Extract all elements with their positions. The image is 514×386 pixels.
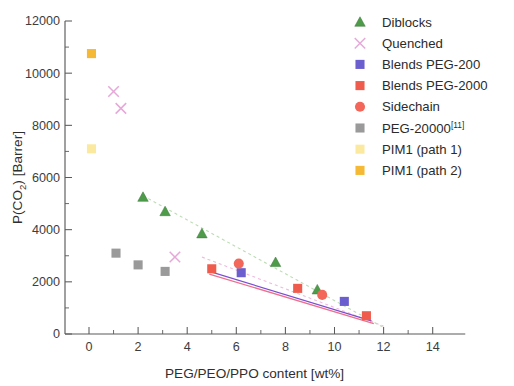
y-tick-label: 2000 [32, 275, 60, 289]
legend-marker-7 [355, 166, 364, 175]
legend-marker-6 [355, 145, 364, 154]
data-point [170, 252, 181, 263]
series-pim1-path-1 [87, 144, 96, 153]
y-tick-label: 8000 [32, 119, 60, 133]
legend-label-7[interactable]: PIM1 (path 2) [382, 163, 462, 178]
x-tick-label: 12 [377, 340, 391, 354]
data-point [197, 228, 208, 238]
legend-label-1[interactable]: Quenched [382, 36, 443, 51]
series-peg-20000 [111, 249, 169, 276]
legend-label-0[interactable]: Diblocks [382, 15, 432, 30]
data-point [234, 259, 244, 269]
x-tick-label: 4 [184, 340, 191, 354]
y-tick-label: 4000 [32, 223, 60, 237]
data-point [340, 297, 349, 306]
data-point [207, 264, 216, 273]
blends-peg2000-trend [209, 274, 373, 324]
x-tick-label: 2 [135, 340, 142, 354]
blends-peg200-trend [209, 271, 371, 321]
legend-marker-2 [355, 60, 364, 69]
legend-label-3[interactable]: Blends PEG-2000 [382, 78, 488, 93]
axis-titles: PEG/PEO/PPO content [wt%]P(CO2) [Barrer] [10, 131, 344, 381]
legend-label-4[interactable]: Sidechain [382, 99, 440, 114]
y-tick-label: 6000 [32, 171, 60, 185]
series-quenched [108, 86, 180, 262]
scatter-plot: 02000400060008000100001200002468101214 P… [0, 0, 514, 386]
x-tick-label: 6 [233, 340, 240, 354]
legend-marker-5 [355, 123, 364, 132]
data-point [362, 311, 371, 320]
series-diblocks [138, 192, 323, 294]
data-point [317, 290, 327, 300]
series-pim1-path-2 [87, 49, 96, 58]
x-tick-label: 14 [426, 340, 440, 354]
y-tick-label: 12000 [25, 14, 60, 28]
data-point [138, 192, 149, 202]
series-blends-peg-2000 [207, 264, 371, 320]
chart-legend: DiblocksQuenchedBlends PEG-200Blends PEG… [355, 15, 488, 178]
legend-label-6[interactable]: PIM1 (path 1) [382, 142, 462, 157]
data-point [160, 206, 171, 216]
data-point [293, 284, 302, 293]
legend-marker-1 [355, 38, 366, 49]
legend-marker-3 [355, 81, 364, 90]
y-tick-label: 10000 [25, 67, 60, 81]
data-point [87, 49, 96, 58]
data-point [116, 103, 127, 114]
y-tick-label: 0 [53, 327, 60, 341]
data-point [108, 86, 119, 97]
legend-label-2[interactable]: Blends PEG-200 [382, 57, 480, 72]
legend-marker-0 [355, 17, 366, 27]
legend-label-5[interactable]: PEG-20000[11] [382, 120, 464, 136]
x-tick-label: 0 [85, 340, 92, 354]
legend-marker-4 [355, 102, 365, 112]
data-point [270, 257, 281, 267]
x-tick-label: 8 [282, 340, 289, 354]
data-point [237, 268, 246, 277]
chart-figure: 02000400060008000100001200002468101214 P… [0, 0, 514, 386]
data-point [134, 260, 143, 269]
x-tick-label: 10 [327, 340, 341, 354]
data-point [161, 267, 170, 276]
y-axis-title: P(CO2) [Barrer] [10, 131, 28, 224]
x-axis-title: PEG/PEO/PPO content [wt%] [165, 366, 344, 381]
data-point [111, 249, 120, 258]
data-point [87, 144, 96, 153]
